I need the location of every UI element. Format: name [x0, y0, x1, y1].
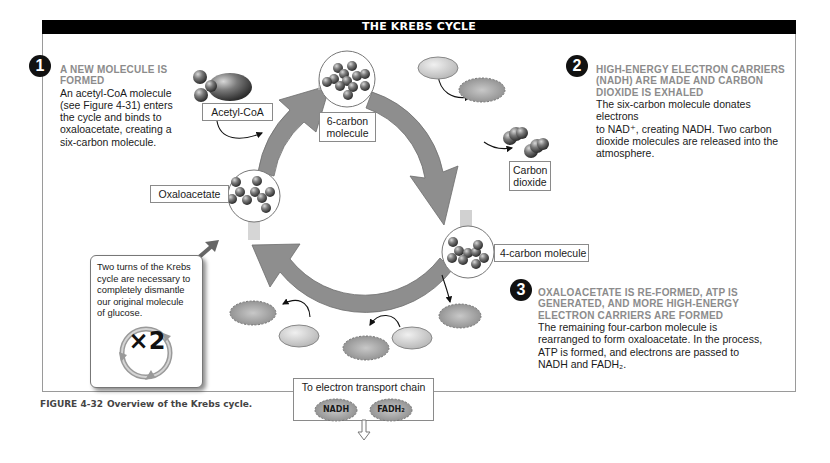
- step-2-heading-line: DIOXIDE IS EXHALED: [596, 87, 796, 98]
- note-pointer-arrow: [198, 240, 219, 258]
- oxaloacetate-label: Oxaloacetate: [150, 185, 229, 203]
- step-1-heading-line: FORMED: [60, 75, 190, 86]
- step-3-body: The remaining four-carbon molecule is re…: [538, 321, 768, 370]
- six-carbon-molecule-icon: [319, 51, 375, 107]
- step-3-heading-line: GENERATED, AND MORE HIGH-ENERGY: [538, 298, 768, 309]
- step-2-heading-line: HIGH-ENERGY ELECTRON CARRIERS: [596, 64, 796, 75]
- nad-to-nadh-arrow-bottom: [370, 315, 400, 327]
- nad-plus-bottom-oval: [392, 327, 432, 349]
- step-2-body: The six-carbon molecule donates electron…: [596, 98, 796, 159]
- six-carbon-label-line2: molecule: [323, 127, 372, 139]
- carbon-dioxide-molecules-icon: [503, 127, 549, 158]
- step-3-body-line: NADH and FADH₂.: [538, 358, 768, 370]
- step-1-badge: 1: [29, 55, 51, 77]
- note-line: completely dismantle: [97, 284, 196, 296]
- step-1-body-line: the cycle and binds to: [60, 111, 190, 123]
- figure-title: THE KREBS CYCLE: [42, 20, 796, 34]
- fad-to-fadh2-arrow: [283, 300, 310, 317]
- step-3-badge: 3: [510, 279, 532, 301]
- step-1-text: A NEW MOLECULE IS FORMED An acetyl-CoA m…: [60, 64, 190, 148]
- step-3-text: OXALOACETATE IS RE-FORMED, ATP IS GENERA…: [538, 287, 768, 370]
- oxaloacetate-molecule-icon: [227, 170, 280, 222]
- figure-number: FIGURE 4-32: [40, 399, 103, 409]
- step-1-body-line: six-carbon molecule.: [60, 136, 190, 148]
- step-3-body-line: rearranged to form oxaloacetate. In the …: [538, 333, 768, 345]
- fad-oval: [279, 325, 319, 347]
- note-line: of glucose.: [97, 307, 196, 319]
- acetyl-coa-label: Acetyl-CoA: [202, 103, 273, 121]
- step-1-body-line: oxaloacetate, creating a: [60, 123, 190, 135]
- acetyl-coa-molecule-icon: [193, 70, 252, 102]
- down-arrow-icon: [358, 420, 370, 440]
- acetyl-coa-arrow: [217, 121, 262, 138]
- six-carbon-label: 6-carbon molecule: [319, 112, 376, 142]
- note-line: cycle are necessary to: [97, 273, 196, 285]
- step-1-heading: A NEW MOLECULE IS FORMED: [60, 64, 190, 87]
- carbon-dioxide-label-line1: Carbon: [513, 164, 547, 176]
- etc-nadh-label: NADH: [313, 405, 359, 414]
- step-3-heading-line: ELECTRON CARRIERS ARE FORMED: [538, 310, 768, 321]
- step-2-body-line: to NAD⁺, creating NADH. Two carbon: [596, 123, 796, 135]
- figure-caption-text: Overview of the Krebs cycle.: [107, 399, 252, 409]
- etc-fadh2-label: FADH₂: [368, 405, 414, 414]
- step-2-body-line: atmosphere.: [596, 147, 796, 159]
- step-2-body-line: dioxide molecules are released into the: [596, 135, 796, 147]
- nad-plus-top-oval: [418, 57, 458, 79]
- carbon-dioxide-label-line2: dioxide: [513, 176, 547, 188]
- four-carbon-molecule-icon: [442, 226, 494, 278]
- nadh-bottom-badge: [343, 336, 389, 360]
- step-2-heading: HIGH-ENERGY ELECTRON CARRIERS (NADH) ARE…: [596, 64, 796, 98]
- two-turns-note: Two turns of the Krebs cycle are necessa…: [90, 255, 203, 388]
- carbon-dioxide-label: Carbon dioxide: [509, 161, 551, 191]
- step-3-heading-line: OXALOACETATE IS RE-FORMED, ATP IS: [538, 287, 768, 298]
- figure-caption: FIGURE 4-32Overview of the Krebs cycle.: [40, 399, 252, 409]
- four-carbon-label: 4-carbon molecule: [494, 244, 589, 262]
- step-2-text: HIGH-ENERGY ELECTRON CARRIERS (NADH) ARE…: [596, 64, 796, 159]
- step-2-badge: 2: [566, 55, 588, 77]
- note-line: Two turns of the Krebs: [97, 261, 196, 273]
- step-2-heading-line: (NADH) ARE MADE AND CARBON: [596, 75, 796, 86]
- atp-badge: [439, 304, 481, 328]
- step-3-body-line: The remaining four-carbon molecule is: [538, 321, 768, 333]
- step-1-body: An acetyl-CoA molecule (see Figure 4-31)…: [60, 87, 190, 148]
- note-line: our original molecule: [97, 296, 196, 308]
- nadh-top-badge: [459, 78, 505, 102]
- step-1-body-line: (see Figure 4-31) enters: [60, 99, 190, 111]
- step-2-body-line: The six-carbon molecule donates electron…: [596, 98, 796, 122]
- six-carbon-label-line1: 6-carbon: [323, 115, 372, 127]
- atp-arrow: [442, 275, 450, 302]
- fadh2-badge: [230, 301, 276, 325]
- multiplier-label: ×2: [117, 336, 177, 348]
- step-3-body-line: ATP is formed, and electrons are passed …: [538, 346, 768, 358]
- step-1-heading-line: A NEW MOLECULE IS: [60, 64, 190, 75]
- step-3-heading: OXALOACETATE IS RE-FORMED, ATP IS GENERA…: [538, 287, 768, 321]
- step-1-body-line: An acetyl-CoA molecule: [60, 87, 190, 99]
